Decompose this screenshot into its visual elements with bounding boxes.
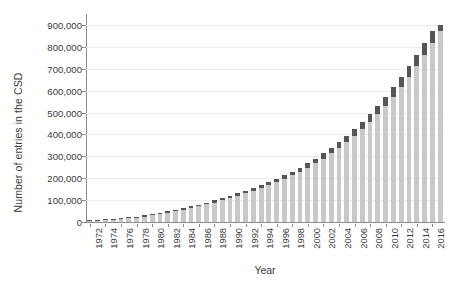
x-axis-tick-mark bbox=[199, 224, 200, 227]
bar-segment-new-entries bbox=[344, 136, 349, 142]
bar bbox=[298, 168, 303, 222]
bar bbox=[165, 211, 170, 222]
bar bbox=[111, 219, 116, 222]
x-axis-tick-label: 2010 bbox=[390, 228, 400, 249]
bar-segment-new-entries bbox=[274, 179, 279, 182]
bar-series-group bbox=[86, 14, 444, 222]
bar-segment-new-entries bbox=[220, 198, 225, 200]
bar-segment-new-entries bbox=[337, 142, 342, 148]
bar-segment-cumulative bbox=[305, 168, 310, 222]
y-axis-tick-label: 500,000 bbox=[47, 107, 82, 118]
bar-segment-cumulative bbox=[142, 217, 147, 222]
bar-segment-new-entries bbox=[142, 215, 147, 216]
x-axis-tick-label: 1996 bbox=[281, 228, 291, 249]
bar-segment-new-entries bbox=[422, 43, 427, 55]
x-axis-tick-label: 1992 bbox=[250, 228, 260, 249]
bar bbox=[422, 43, 427, 222]
bar bbox=[438, 25, 443, 222]
bar bbox=[391, 87, 396, 222]
bar-segment-new-entries bbox=[290, 172, 295, 176]
bar-segment-cumulative bbox=[290, 175, 295, 222]
bar bbox=[383, 97, 388, 222]
bar bbox=[95, 220, 100, 222]
bar-segment-new-entries bbox=[259, 185, 264, 188]
x-axis-tick-label: 1986 bbox=[203, 228, 213, 249]
x-axis-tick-label: 1978 bbox=[141, 228, 151, 249]
bar-segment-cumulative bbox=[87, 221, 92, 222]
bar bbox=[173, 210, 178, 222]
bar-segment-cumulative bbox=[430, 43, 435, 222]
bar-segment-cumulative bbox=[119, 219, 124, 222]
bar-segment-cumulative bbox=[228, 198, 233, 222]
y-axis-tick-label: 300,000 bbox=[47, 151, 82, 162]
bar-segment-new-entries bbox=[375, 106, 380, 114]
bar bbox=[399, 77, 404, 222]
bar bbox=[228, 196, 233, 222]
x-axis-tick-mark bbox=[214, 224, 215, 227]
y-axis-tick-label: 900,000 bbox=[47, 19, 82, 30]
bar-segment-new-entries bbox=[119, 218, 124, 219]
bar bbox=[337, 142, 342, 222]
bar bbox=[368, 114, 373, 222]
x-axis-tick-mark bbox=[339, 224, 340, 227]
bar-segment-new-entries bbox=[352, 129, 357, 136]
x-axis-tick-label: 1998 bbox=[296, 228, 306, 249]
x-axis-tick-mark bbox=[401, 224, 402, 227]
bar-segment-new-entries bbox=[305, 163, 310, 167]
x-axis-tick-label: 1994 bbox=[265, 228, 275, 249]
x-axis-tick-mark bbox=[370, 224, 371, 227]
bar-segment-cumulative bbox=[189, 208, 194, 222]
bar-segment-cumulative bbox=[111, 220, 116, 222]
bar bbox=[375, 106, 380, 222]
x-axis-tick-label: 1974 bbox=[109, 228, 119, 249]
csd-growth-chart: Number of entries in the CSD 0100,000200… bbox=[0, 0, 463, 285]
bar-segment-cumulative bbox=[360, 129, 365, 222]
bar-segment-new-entries bbox=[158, 213, 163, 214]
bar-segment-new-entries bbox=[438, 25, 443, 31]
x-axis-tick-label: 1982 bbox=[172, 228, 182, 249]
bar-segment-cumulative bbox=[321, 159, 326, 222]
bar-segment-new-entries bbox=[150, 214, 155, 215]
bar bbox=[126, 218, 131, 222]
x-axis-tick-mark bbox=[121, 224, 122, 227]
bar bbox=[150, 214, 155, 222]
bar-segment-cumulative bbox=[344, 142, 349, 222]
bar-segment-cumulative bbox=[150, 215, 155, 222]
bar bbox=[321, 153, 326, 222]
bar-segment-new-entries bbox=[329, 148, 334, 153]
bar bbox=[360, 122, 365, 222]
bar-segment-cumulative bbox=[313, 163, 318, 222]
bar-segment-cumulative bbox=[165, 213, 170, 222]
bar-segment-new-entries bbox=[173, 210, 178, 212]
bar-segment-cumulative bbox=[438, 31, 443, 222]
bar-segment-new-entries bbox=[95, 220, 100, 221]
y-axis-tick-label: 100,000 bbox=[47, 195, 82, 206]
x-axis-tick-label: 1988 bbox=[218, 228, 228, 249]
bar-segment-new-entries bbox=[407, 66, 412, 77]
bar bbox=[243, 191, 248, 222]
x-axis-tick-mark bbox=[292, 224, 293, 227]
x-axis-tick-mark bbox=[230, 224, 231, 227]
bar bbox=[204, 203, 209, 222]
bar-segment-new-entries bbox=[251, 188, 256, 191]
bar bbox=[313, 159, 318, 222]
bar-segment-cumulative bbox=[95, 221, 100, 222]
bar-segment-cumulative bbox=[414, 66, 419, 222]
y-axis-tick-label: 600,000 bbox=[47, 85, 82, 96]
bar-segment-cumulative bbox=[383, 106, 388, 222]
x-axis-tick-label: 2012 bbox=[405, 228, 415, 249]
x-axis-title: Year bbox=[86, 264, 444, 276]
bar bbox=[352, 129, 357, 222]
bar-segment-new-entries bbox=[165, 211, 170, 212]
bar-segment-cumulative bbox=[368, 122, 373, 222]
bar bbox=[220, 198, 225, 222]
x-axis-tick-label: 1984 bbox=[187, 228, 197, 249]
bar-segment-cumulative bbox=[173, 211, 178, 222]
bar-segment-cumulative bbox=[422, 55, 427, 222]
y-axis-tick-label: 700,000 bbox=[47, 63, 82, 74]
bar-segment-new-entries bbox=[360, 122, 365, 129]
bar bbox=[259, 185, 264, 222]
bar-segment-cumulative bbox=[251, 191, 256, 222]
x-axis-tick-label: 1980 bbox=[156, 228, 166, 249]
bar-segment-cumulative bbox=[204, 204, 209, 222]
